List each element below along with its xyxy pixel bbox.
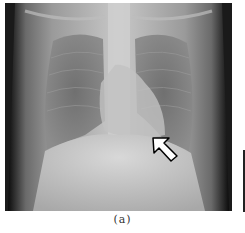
- chest-xray-image: [5, 3, 232, 211]
- adjacent-figure-edge: [243, 150, 245, 212]
- figure-caption: (a): [0, 213, 245, 226]
